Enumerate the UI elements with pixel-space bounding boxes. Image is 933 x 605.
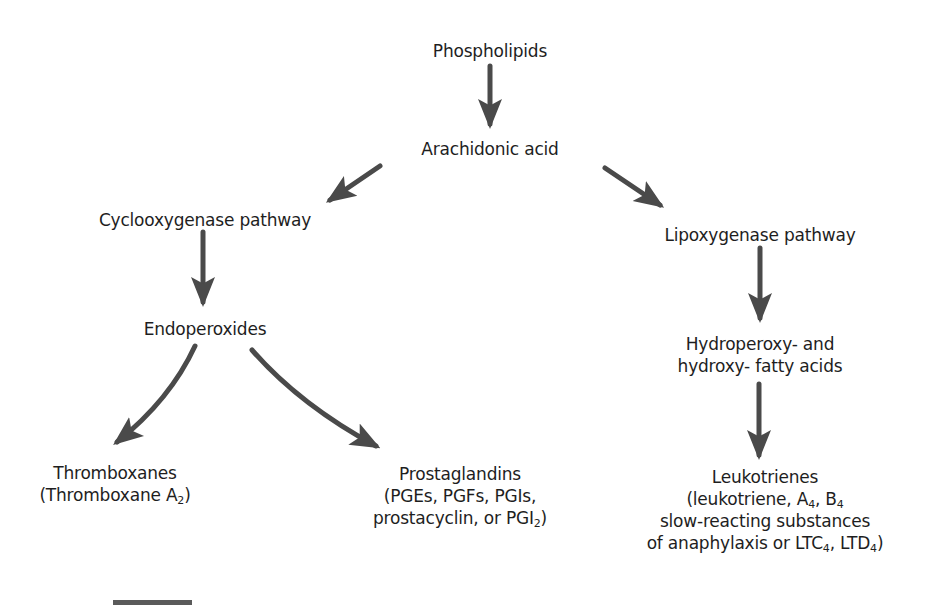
arrow-endoperoxides-to-thromboxanes — [117, 346, 195, 442]
node-hydroperoxy-fatty-acids: Hydroperoxy- and hydroxy- fatty acids — [655, 333, 865, 377]
phospholipids-label: Phospholipids — [433, 41, 547, 61]
leukotrienes-line1: Leukotrienes — [620, 466, 910, 488]
node-cyclooxygenase-pathway: Cyclooxygenase pathway — [70, 209, 340, 231]
arrow-arachidonic-to-cyclooxygenase — [330, 166, 380, 200]
lipoxygenase-label: Lipoxygenase pathway — [664, 225, 855, 245]
node-lipoxygenase-pathway: Lipoxygenase pathway — [640, 224, 880, 246]
arachidonic-acid-label: Arachidonic acid — [421, 139, 558, 159]
leukotrienes-line2: (leukotriene, A4, B4 — [620, 488, 910, 510]
leukotrienes-line3: slow-reacting substances — [620, 510, 910, 532]
hydroperoxy-line2: hydroxy- fatty acids — [655, 355, 865, 377]
hydroperoxy-line1: Hydroperoxy- and — [655, 333, 865, 355]
node-endoperoxides: Endoperoxides — [120, 318, 290, 340]
thromboxanes-line1: Thromboxanes — [25, 462, 205, 484]
node-thromboxanes: Thromboxanes (Thromboxane A2) — [25, 462, 205, 506]
node-phospholipids: Phospholipids — [420, 40, 560, 62]
node-prostaglandins: Prostaglandins (PGEs, PGFs, PGIs, prosta… — [330, 463, 590, 529]
cyclooxygenase-label: Cyclooxygenase pathway — [99, 210, 311, 230]
thromboxanes-line2: (Thromboxane A2) — [25, 484, 205, 506]
prostaglandins-line3: prostacyclin, or PGI2) — [330, 507, 590, 529]
arrow-arachidonic-to-lipoxygenase — [605, 168, 660, 205]
prostaglandins-line2: (PGEs, PGFs, PGIs, — [330, 485, 590, 507]
leukotrienes-line4: of anaphylaxis or LTC4, LTD4) — [620, 532, 910, 554]
node-leukotrienes: Leukotrienes (leukotriene, A4, B4 slow-r… — [620, 466, 910, 554]
node-arachidonic-acid: Arachidonic acid — [400, 138, 580, 160]
endoperoxides-label: Endoperoxides — [144, 319, 267, 339]
arrow-endoperoxides-to-prostaglandins — [252, 350, 376, 446]
prostaglandins-line1: Prostaglandins — [330, 463, 590, 485]
bottom-bar-artifact — [113, 600, 192, 605]
